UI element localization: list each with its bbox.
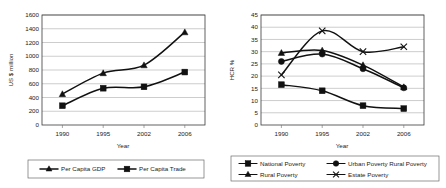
y-axis-title-left: US $ million [7, 53, 14, 87]
y-tick-right-1: 5 [255, 109, 259, 116]
x-tick-left-0: 1990 [56, 130, 70, 137]
y-tick-left-8: 1600 [25, 11, 39, 18]
x-tick-right-1: 1995 [315, 130, 329, 137]
x-tick-right-2: 2002 [356, 130, 370, 137]
x-tick-labels-left: 1990 1995 2002 2006 [56, 130, 193, 137]
series-national-poverty [279, 82, 407, 112]
y-tick-left-5: 1000 [25, 52, 39, 59]
chart-left-svg: 1600 1400 1200 1000 800 600 400 200 0 US… [0, 0, 223, 188]
legend-label-right-0: National Poverty [260, 160, 306, 167]
y-tick-labels-right: 45 40 35 30 25 20 15 10 5 0 [251, 11, 258, 128]
x-tick-labels-right: 1990 1995 2002 2006 [275, 130, 412, 137]
y-tick-right-6: 30 [251, 48, 258, 55]
y-tick-left-7: 1400 [25, 25, 39, 32]
legend-label-left-1: Per Capita Trade [139, 165, 186, 172]
chart-left-gdp-trade: 1600 1400 1200 1000 800 600 400 200 0 US… [0, 0, 223, 188]
y-tick-left-3: 600 [29, 80, 40, 87]
x-tickmarks-right [281, 125, 403, 128]
series-group-left [59, 29, 188, 109]
legend-item-rural-poverty[interactable]: Rural Poverty [239, 171, 298, 178]
y-tick-right-7: 35 [251, 36, 258, 43]
gridlines-left [42, 15, 205, 111]
series-estate-poverty [278, 28, 407, 78]
y-tick-right-9: 45 [251, 11, 258, 18]
x-tick-right-0: 1990 [275, 130, 289, 137]
x-tick-left-1: 1995 [96, 130, 110, 137]
series-per-capita-trade [60, 69, 188, 108]
series-group-right [278, 28, 407, 112]
x-axis-title-left: Year [117, 142, 130, 149]
y-tick-left-4: 800 [29, 66, 40, 73]
square-marker-icon [245, 161, 251, 167]
legend-item-national-poverty[interactable]: National Poverty [239, 160, 306, 167]
x-tickmarks-left [62, 125, 184, 128]
y-tick-labels-left: 1600 1400 1200 1000 800 600 400 200 0 [25, 11, 39, 128]
legend-label-right-1: Urban Poverty Rural Poverty [348, 160, 428, 167]
legend-label-right-2: Rural Poverty [260, 171, 298, 178]
chart-right-poverty: 45 40 35 30 25 20 15 10 5 0 HCR % 1990 [223, 0, 446, 188]
x-axis-title-right: Year [336, 142, 349, 149]
y-tick-left-1: 200 [29, 107, 40, 114]
circle-marker-icon [333, 161, 339, 167]
y-tick-right-3: 15 [251, 85, 258, 92]
y-axis-title-right: HCR % [228, 59, 235, 80]
y-tick-right-4: 20 [251, 72, 258, 79]
chart-page: 1600 1400 1200 1000 800 600 400 200 0 US… [0, 0, 446, 188]
legend-label-right-3: Estate Poverty [348, 171, 389, 178]
y-tick-right-0: 0 [255, 121, 259, 128]
x-tick-left-3: 2006 [178, 130, 192, 137]
y-tick-right-2: 10 [251, 97, 258, 104]
y-tick-right-5: 25 [251, 60, 258, 67]
series-per-capita-gdp [59, 29, 188, 97]
square-marker-icon [124, 166, 130, 172]
y-tick-right-8: 40 [251, 23, 258, 30]
y-tick-left-6: 1200 [25, 39, 39, 46]
legend-label-left-0: Per Capita GDP [61, 165, 105, 172]
y-tick-left-2: 400 [29, 94, 40, 101]
x-tick-right-3: 2006 [397, 130, 411, 137]
chart-right-svg: 45 40 35 30 25 20 15 10 5 0 HCR % 1990 [223, 0, 446, 188]
x-tick-left-2: 2002 [137, 130, 151, 137]
y-tick-left-0: 0 [36, 121, 40, 128]
legend-item-per-capita-trade[interactable]: Per Capita Trade [118, 165, 186, 172]
